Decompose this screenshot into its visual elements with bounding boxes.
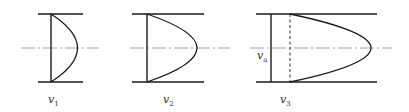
label-v3: v3: [280, 93, 291, 108]
label-mean-velocity: va: [257, 49, 267, 64]
panel-v1: v1: [21, 14, 99, 108]
velocity-profile-diagram: v1 v2 va v3: [0, 0, 409, 112]
label-v2: v2: [163, 93, 174, 108]
panel-v2: v2: [130, 14, 230, 108]
panel-v3: va v3: [250, 14, 392, 108]
label-v1: v1: [48, 93, 59, 108]
